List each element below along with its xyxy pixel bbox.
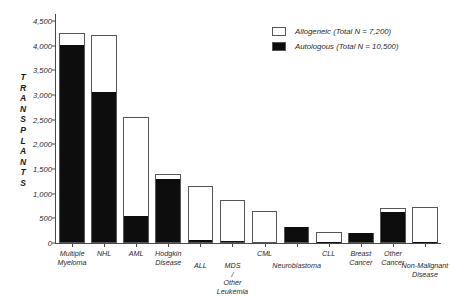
y-axis-tick-label: 2,500 <box>33 115 52 124</box>
legend-label: Autologous (Total N = 10,500) <box>295 42 399 51</box>
bar-segment-autologous <box>285 227 309 242</box>
legend-swatch-auto <box>272 42 286 51</box>
legend-swatch-allo <box>272 27 286 36</box>
y-axis-tick-label: 4,500 <box>33 17 52 26</box>
y-axis-tick-label: 3,000 <box>33 91 52 100</box>
x-axis-label-line: Neuroblastoma <box>272 261 321 270</box>
bar-mds-other-leukemia[interactable] <box>220 200 246 243</box>
bar-segment-allogeneic <box>380 208 406 243</box>
bar-segment-autologous <box>221 241 245 242</box>
bar-cml[interactable] <box>252 211 278 243</box>
bar-segment-allogeneic <box>252 211 278 243</box>
y-axis-tick-label: 2,000 <box>33 140 52 149</box>
bar-segment-allogeneic <box>412 207 438 243</box>
bar-segment-autologous <box>381 212 405 242</box>
x-axis-tick-mark <box>297 243 298 247</box>
bar-nhl[interactable] <box>91 35 117 243</box>
legend-item[interactable]: Autologous (Total N = 10,500) <box>272 39 399 54</box>
x-axis-label: Neuroblastoma <box>270 262 324 271</box>
y-axis-tick-label: 3,500 <box>33 66 52 75</box>
legend-label: Allogeneic (Total N = 7,200) <box>295 27 391 36</box>
x-axis-tick-mark <box>232 243 233 247</box>
bar-segment-autologous <box>189 240 213 242</box>
x-axis-tick-mark <box>393 243 394 247</box>
x-axis-label: MDS/OtherLeukemia <box>205 262 259 296</box>
x-axis-label: Non-MalignantDisease <box>398 262 450 279</box>
x-axis-tick-mark <box>361 243 362 247</box>
bar-segment-allogeneic <box>123 117 149 243</box>
x-axis-tick-mark <box>329 243 330 247</box>
bar-segment-allogeneic <box>155 174 181 243</box>
x-axis-line <box>55 243 441 244</box>
bar-segment-autologous <box>60 45 84 242</box>
bar-segment-allogeneic <box>91 35 117 243</box>
x-axis-label-line: Disease <box>412 270 438 279</box>
y-axis-tick-label: 500 <box>39 214 52 223</box>
y-axis-tick-label: 4,000 <box>33 41 52 50</box>
bar-multiple-myeloma[interactable] <box>59 33 85 243</box>
y-axis-tick-labels: 05001,0001,5002,0002,5003,0003,5004,0004… <box>0 0 52 291</box>
bar-hodgkin-disease[interactable] <box>155 174 181 243</box>
y-axis-tick-label: 1,000 <box>33 189 52 198</box>
bar-aml[interactable] <box>123 117 149 243</box>
x-axis-tick-mark <box>265 243 266 247</box>
bar-other-cancer[interactable] <box>380 208 406 243</box>
bar-segment-allogeneic <box>316 232 342 243</box>
bar-breast-cancer[interactable] <box>348 233 374 243</box>
x-axis-label-line: Myeloma <box>57 258 86 267</box>
x-axis-tick-mark <box>168 243 169 247</box>
bar-segment-autologous <box>92 92 116 242</box>
bar-segment-autologous <box>156 179 180 242</box>
y-axis-tick-label: 1,500 <box>33 165 52 174</box>
y-axis-line <box>55 14 56 244</box>
x-axis-label: CML <box>238 250 292 259</box>
x-axis-tick-mark <box>72 243 73 247</box>
bar-segment-autologous <box>124 216 148 242</box>
bar-neuroblastoma[interactable] <box>284 227 310 243</box>
bar-segment-autologous <box>349 233 373 242</box>
bar-cll[interactable] <box>316 232 342 243</box>
legend: Allogeneic (Total N = 7,200)Autologous (… <box>272 24 399 54</box>
bar-segment-allogeneic <box>284 227 310 243</box>
x-axis-label-line: CML <box>257 249 272 258</box>
bar-segment-allogeneic <box>188 186 214 243</box>
x-axis-tick-mark <box>136 243 137 247</box>
x-axis-tick-mark <box>425 243 426 247</box>
bar-all[interactable] <box>188 186 214 243</box>
bar-non-malignant-disease[interactable] <box>412 207 438 243</box>
bar-segment-allogeneic <box>348 233 374 243</box>
bar-segment-allogeneic <box>220 200 246 243</box>
x-axis-tick-mark <box>200 243 201 247</box>
legend-item[interactable]: Allogeneic (Total N = 7,200) <box>272 24 399 39</box>
x-axis-tick-mark <box>104 243 105 247</box>
bar-segment-allogeneic <box>59 33 85 243</box>
x-axis-label-line: Leukemia <box>217 287 248 296</box>
